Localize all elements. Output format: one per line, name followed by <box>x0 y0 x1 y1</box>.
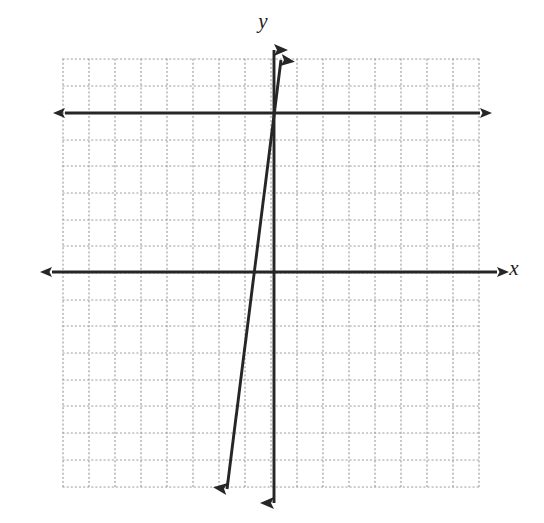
plotted-lines-group <box>65 60 480 489</box>
x-axis-label: x <box>508 256 519 280</box>
y-axis-label: y <box>256 9 268 33</box>
coordinate-plane-svg: y x <box>0 0 544 523</box>
graph-figure: y x <box>0 0 544 523</box>
